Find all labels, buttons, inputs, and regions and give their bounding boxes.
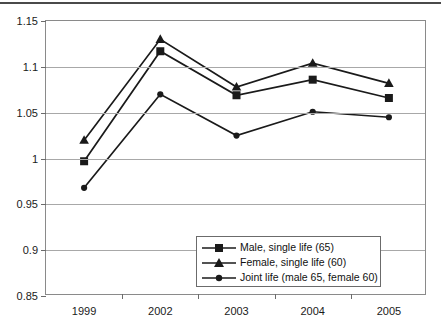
legend-item-male[interactable]: Male, single life (65) bbox=[201, 240, 375, 255]
chart-figure: 1.151.11.0510.950.90.8519992002200320042… bbox=[0, 0, 441, 332]
x-axis-tick bbox=[122, 294, 123, 299]
triangle-marker-icon bbox=[201, 256, 237, 270]
data-point-marker bbox=[233, 91, 241, 99]
y-axis-tick bbox=[41, 21, 46, 22]
y-axis-label: 1.15 bbox=[17, 16, 38, 27]
y-axis-tick bbox=[41, 159, 46, 160]
data-point-marker bbox=[81, 185, 87, 191]
y-axis-label: 0.9 bbox=[23, 245, 38, 256]
gridline bbox=[46, 159, 425, 160]
figure-top-rule bbox=[0, 2, 441, 4]
square-marker-icon bbox=[201, 241, 237, 255]
legend-item-joint[interactable]: Joint life (male 65, female 60) bbox=[201, 270, 375, 285]
circle-marker-icon bbox=[201, 271, 237, 285]
y-axis-tick bbox=[41, 67, 46, 68]
y-axis-label: 1.1 bbox=[23, 61, 38, 72]
x-axis-label: 2005 bbox=[377, 306, 401, 317]
y-axis-label: 0.95 bbox=[17, 199, 38, 210]
data-point-marker bbox=[309, 76, 317, 84]
x-axis-label: 1999 bbox=[72, 306, 96, 317]
y-axis-tick bbox=[41, 204, 46, 205]
legend-label-female: Female, single life (60) bbox=[240, 257, 346, 268]
data-point-marker bbox=[386, 114, 392, 120]
x-axis-tick bbox=[351, 294, 352, 299]
x-axis-tick bbox=[275, 294, 276, 299]
data-point-marker bbox=[233, 132, 239, 138]
data-point-marker bbox=[156, 47, 164, 55]
legend-label-male: Male, single life (65) bbox=[240, 242, 334, 253]
series-line bbox=[84, 94, 389, 188]
chart-legend: Male, single life (65) Female, single li… bbox=[196, 236, 381, 287]
y-axis-tick bbox=[41, 250, 46, 251]
x-axis-label: 2003 bbox=[224, 306, 248, 317]
gridline bbox=[46, 204, 425, 205]
data-point-marker bbox=[308, 58, 318, 67]
y-axis-label: 1 bbox=[32, 153, 38, 164]
gridline bbox=[46, 113, 425, 114]
legend-label-joint: Joint life (male 65, female 60) bbox=[240, 272, 378, 283]
x-axis-label: 2004 bbox=[300, 306, 324, 317]
data-point-marker bbox=[156, 34, 166, 43]
data-point-marker bbox=[385, 94, 393, 102]
x-axis-tick bbox=[198, 294, 199, 299]
y-axis-tick bbox=[41, 296, 46, 297]
gridline bbox=[46, 67, 425, 68]
y-axis-tick bbox=[41, 113, 46, 114]
legend-item-female[interactable]: Female, single life (60) bbox=[201, 255, 375, 270]
x-axis-label: 2002 bbox=[148, 306, 172, 317]
data-point-marker bbox=[157, 91, 163, 97]
y-axis-label: 1.05 bbox=[17, 107, 38, 118]
y-axis-label: 0.85 bbox=[17, 291, 38, 302]
